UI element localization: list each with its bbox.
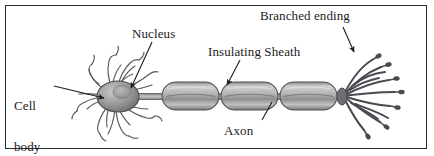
label-branched-ending: Branched ending (260, 9, 350, 23)
insulating-sheath-leader (227, 60, 240, 85)
branched-ending-terminals (337, 52, 405, 140)
label-cell-body: Cell body (14, 72, 40, 156)
nucleus-organelle (113, 86, 131, 99)
cell-body-soma (97, 81, 139, 112)
label-axon: Axon (224, 124, 253, 138)
label-cell-body-line1: Cell (14, 99, 40, 113)
label-nucleus: Nucleus (132, 27, 175, 41)
myelin-segment (280, 82, 337, 110)
cell-body-leader (54, 86, 104, 98)
label-insulating-sheath: Insulating Sheath (208, 45, 300, 59)
branched-ending-leader (343, 27, 354, 52)
nucleus-leader (131, 42, 152, 88)
myelin-sheath-segments (162, 82, 337, 110)
neuron-diagram-figure: Cell body Nucleus Insulating Sheath Axon… (0, 0, 434, 156)
label-cell-body-line2: body (14, 140, 40, 154)
myelin-segment (162, 82, 219, 110)
neuron-illustration (0, 0, 434, 156)
